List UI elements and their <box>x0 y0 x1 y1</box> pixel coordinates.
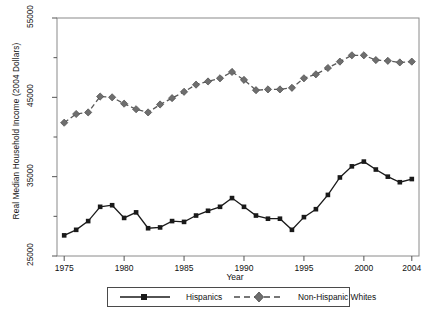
x-tick-label: 2004 <box>392 263 432 273</box>
data-point <box>408 58 415 65</box>
chart-figure: Real Median Household Income (2004 Dolla… <box>0 0 435 314</box>
data-point <box>110 203 115 208</box>
data-point <box>300 75 307 82</box>
data-point <box>324 64 331 71</box>
data-point <box>74 228 79 233</box>
data-point <box>278 216 283 221</box>
data-point <box>158 225 163 230</box>
data-point <box>384 57 391 64</box>
y-tick-label: 35000 <box>26 158 35 192</box>
data-point <box>98 205 103 210</box>
series-line-non-hispanic-whites <box>64 55 412 122</box>
data-point <box>302 215 307 220</box>
x-tick-label: 1985 <box>164 263 204 273</box>
data-point <box>396 59 403 66</box>
data-point <box>374 167 379 172</box>
data-point <box>276 86 283 93</box>
data-point <box>85 109 92 116</box>
data-point <box>228 68 235 75</box>
data-point <box>192 81 199 88</box>
series-line-hispanics <box>64 162 412 236</box>
data-point <box>254 213 259 218</box>
data-point <box>156 101 163 108</box>
data-point <box>204 78 211 85</box>
data-point <box>218 205 223 210</box>
data-point <box>410 177 415 182</box>
data-point <box>348 52 355 59</box>
x-axis-title: Year <box>57 272 413 282</box>
data-point <box>338 175 343 180</box>
data-point <box>314 207 319 212</box>
y-tick-label: 55000 <box>26 0 35 34</box>
data-point <box>216 75 223 82</box>
data-point <box>242 205 247 210</box>
data-point <box>180 88 187 95</box>
data-point <box>109 94 116 101</box>
data-point <box>62 233 67 238</box>
data-point <box>145 109 152 116</box>
data-point <box>230 196 235 201</box>
data-point <box>362 159 367 164</box>
legend-label-hispanics: Hispanics <box>186 292 222 302</box>
x-tick-label: 1990 <box>224 263 264 273</box>
data-point <box>121 100 128 107</box>
data-point <box>372 56 379 63</box>
data-point <box>350 164 355 169</box>
legend-label-whites: Non-Hispanic Whites <box>298 292 376 302</box>
data-point <box>182 220 187 225</box>
y-tick-label: 25000 <box>26 238 35 272</box>
data-point <box>290 228 295 233</box>
chart-legend: Hispanics Non-Hispanic Whites <box>107 287 350 307</box>
data-point <box>360 52 367 59</box>
data-point <box>194 213 199 218</box>
y-tick-label: 45000 <box>26 79 35 113</box>
x-tick-label: 2000 <box>344 263 384 273</box>
data-point <box>326 193 331 198</box>
data-point <box>133 106 140 113</box>
data-point <box>398 180 403 185</box>
data-point <box>288 84 295 91</box>
data-point <box>206 208 211 213</box>
y-axis-title: Real Median Household Income (2004 Dolla… <box>11 11 21 251</box>
data-point <box>170 219 175 224</box>
x-tick-label: 1995 <box>284 263 324 273</box>
data-point <box>386 174 391 179</box>
data-point <box>266 216 271 221</box>
data-point <box>86 219 91 224</box>
data-point <box>264 86 271 93</box>
x-tick-label: 1975 <box>44 263 84 273</box>
data-point <box>312 71 319 78</box>
data-point <box>134 210 139 215</box>
x-tick-label: 1980 <box>104 263 144 273</box>
data-point <box>336 58 343 65</box>
data-point <box>122 216 127 221</box>
data-point <box>146 226 151 231</box>
data-point <box>168 95 175 102</box>
legend-marker-whites <box>254 292 263 302</box>
legend-marker-hispanics <box>141 294 147 300</box>
